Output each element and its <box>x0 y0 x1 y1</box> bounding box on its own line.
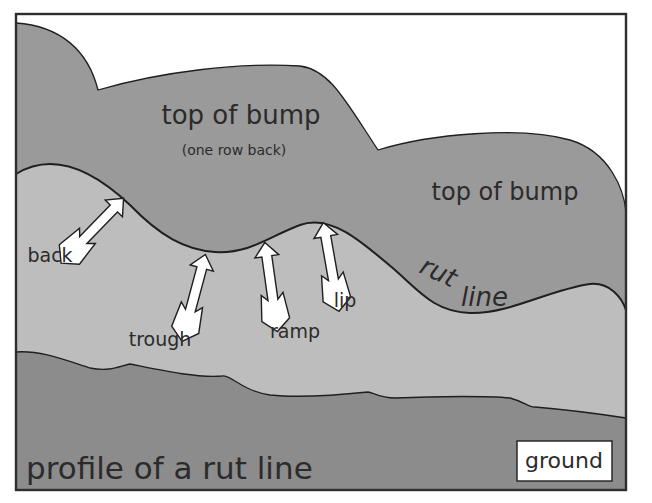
diagram-title: profile of a rut line <box>26 450 313 486</box>
rut-line-diagram: top of bump (one row back) top of bump r… <box>0 0 652 503</box>
near-bump-label: top of bump <box>432 178 579 206</box>
trough-label: trough <box>129 328 192 350</box>
ramp-label: ramp <box>270 320 320 342</box>
rut-line-label-line: line <box>461 282 508 312</box>
back-label: back <box>27 244 72 266</box>
far-bump-label: top of bump <box>161 100 320 130</box>
ground-label: ground <box>525 448 603 473</box>
far-bump-sublabel: (one row back) <box>182 142 287 158</box>
lip-label: lip <box>334 289 357 311</box>
